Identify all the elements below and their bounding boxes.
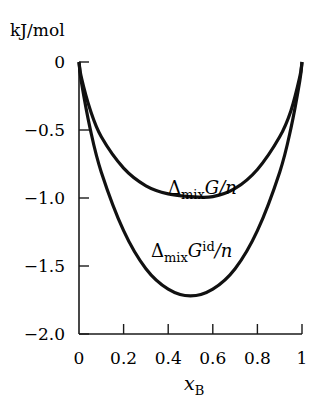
x-ticks: 00.20.40.60.81 <box>74 324 308 368</box>
y-axis-unit-label: kJ/mol <box>10 20 65 40</box>
series-line-mix-G <box>79 62 302 197</box>
x-tick-label: 0.8 <box>244 348 271 368</box>
x-axis-label: xB <box>184 372 204 398</box>
chart: kJ/mol 0−0.5−1.0−1.5−2.0 00.20.40.60.81 … <box>0 0 329 415</box>
y-tick-label: −1.5 <box>24 256 65 276</box>
annotation-mix-G-ideal: ΔmixGid/n <box>151 239 232 265</box>
y-tick-label: −2.0 <box>24 324 65 344</box>
x-tick-label: 0.2 <box>110 348 137 368</box>
x-tick-label: 0 <box>74 348 85 368</box>
annotation-mix-G: ΔmixG/n <box>168 177 237 202</box>
x-tick-label: 1 <box>297 348 308 368</box>
x-tick-label: 0.6 <box>199 348 226 368</box>
x-tick-label: 0.4 <box>155 348 182 368</box>
y-tick-label: −0.5 <box>24 120 65 140</box>
y-tick-label: −1.0 <box>24 188 65 208</box>
y-tick-label: 0 <box>54 52 65 72</box>
